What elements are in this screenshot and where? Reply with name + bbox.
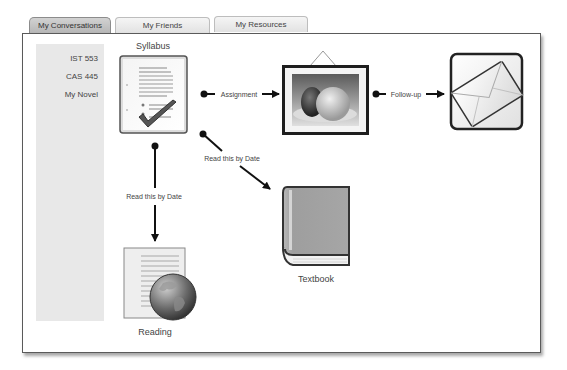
- tab-label: My Friends: [143, 21, 183, 30]
- tab-my-friends[interactable]: My Friends: [115, 17, 210, 33]
- tab-label: My Resources: [235, 20, 286, 29]
- textbook-node[interactable]: [277, 185, 353, 270]
- sidebar-item-cas-445[interactable]: CAS 445: [66, 72, 98, 81]
- document-checklist-icon: [119, 55, 188, 134]
- assignment-node[interactable]: [281, 49, 370, 136]
- syllabus-node[interactable]: [119, 55, 188, 134]
- reading-node[interactable]: [123, 247, 199, 321]
- book-icon: [277, 185, 353, 270]
- sidebar: IST 553 CAS 445 My Novel: [36, 44, 104, 321]
- followup-node[interactable]: [449, 52, 524, 131]
- edge-label-textbook: Read this by Date: [203, 155, 261, 162]
- tab-my-resources[interactable]: My Resources: [214, 16, 308, 32]
- edge-label-reading: Read this by Date: [125, 193, 183, 200]
- tab-label: My Conversations: [38, 21, 102, 30]
- edge-label-followup: Follow-up: [390, 91, 422, 98]
- reading-label: Reading: [138, 327, 172, 337]
- document-globe-icon: [123, 247, 199, 321]
- edge-label-assignment: Assignment: [220, 91, 259, 98]
- tab-my-conversations[interactable]: My Conversations: [29, 17, 111, 33]
- picture-frame-icon: [281, 49, 370, 136]
- sidebar-item-ist-553[interactable]: IST 553: [70, 54, 98, 63]
- sidebar-item-my-novel[interactable]: My Novel: [65, 90, 98, 99]
- envelope-icon: [449, 52, 524, 131]
- textbook-label: Textbook: [298, 274, 334, 284]
- syllabus-label: Syllabus: [136, 41, 170, 51]
